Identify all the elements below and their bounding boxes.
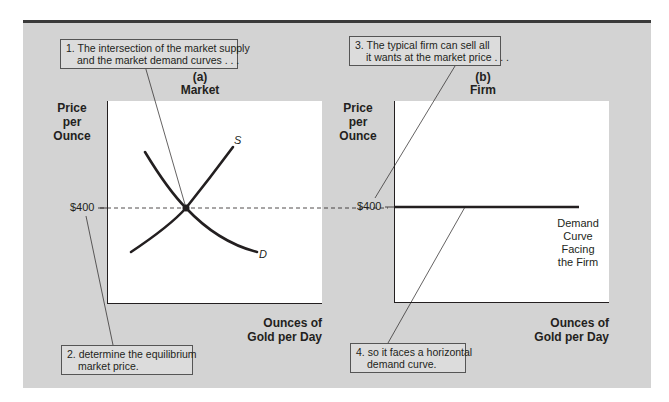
demand-curve [145, 152, 257, 252]
callout-1: 1. The intersection of the market supply… [60, 39, 238, 69]
callout-2: 2. determine the equilibrium market pric… [61, 345, 193, 375]
callout-3: 3. The typical firm can sell all it want… [349, 36, 501, 66]
supply-curve [131, 147, 233, 252]
callout-4: 4. so it faces a horizontal demand curve… [350, 343, 466, 373]
